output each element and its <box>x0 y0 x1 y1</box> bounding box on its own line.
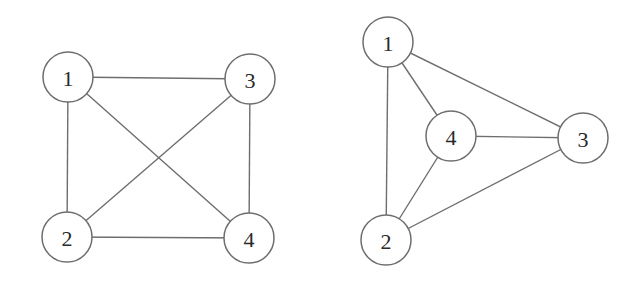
left-graph: 1234 <box>42 52 275 263</box>
right-graph: 1234 <box>361 17 608 265</box>
nodes: 1234 <box>361 17 608 265</box>
edge-1-2 <box>386 42 388 240</box>
node-3: 3 <box>225 54 275 104</box>
node-4: 4 <box>426 111 476 161</box>
edge-1-3 <box>388 42 583 138</box>
node-label: 2 <box>62 226 73 251</box>
node-label: 3 <box>578 127 589 152</box>
node-3: 3 <box>558 113 608 163</box>
node-2: 2 <box>361 215 411 265</box>
node-label: 3 <box>245 68 256 93</box>
edges <box>386 42 583 240</box>
edges <box>67 77 250 238</box>
node-label: 1 <box>63 66 74 91</box>
node-label: 4 <box>446 125 457 150</box>
graphs-root: 12341234 <box>42 17 608 265</box>
node-label: 4 <box>244 227 255 252</box>
node-2: 2 <box>42 212 92 262</box>
edge-2-3 <box>67 79 250 237</box>
node-label: 1 <box>383 31 394 56</box>
node-1: 1 <box>363 17 413 67</box>
edge-1-3 <box>68 77 250 79</box>
edge-2-3 <box>386 138 583 240</box>
edge-2-4 <box>67 237 249 238</box>
diagram-canvas: 12341234 <box>0 0 643 289</box>
node-label: 2 <box>381 229 392 254</box>
node-4: 4 <box>224 213 274 263</box>
node-1: 1 <box>43 52 93 102</box>
